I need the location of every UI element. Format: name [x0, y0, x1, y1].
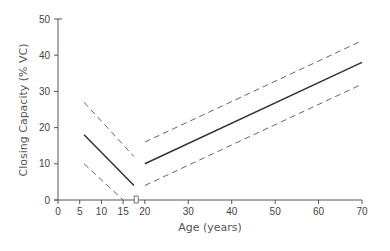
x-tick-label: 5: [77, 206, 83, 217]
x-axis-label: Age (years): [178, 221, 242, 234]
series-line: [84, 102, 134, 156]
series-line: [84, 135, 134, 186]
y-tick-label: 30: [39, 86, 51, 97]
series-line: [145, 62, 362, 163]
y-axis-label: Closing Capacity (% VC): [17, 43, 30, 176]
x-tick-label: 30: [183, 206, 195, 217]
closing-capacity-chart: 01020304050051015203040506070 Age (years…: [0, 0, 390, 251]
y-tick-label: 50: [39, 14, 51, 25]
y-tick-label: 10: [39, 158, 51, 169]
series-lines: [84, 41, 362, 200]
x-tick-label: 40: [226, 206, 238, 217]
x-tick-label: 10: [96, 206, 108, 217]
x-tick-label: 20: [139, 206, 151, 217]
axis-break-icon: [134, 196, 138, 203]
x-tick-label: 70: [356, 206, 368, 217]
x-tick-label: 15: [118, 206, 130, 217]
x-tick-label: 50: [270, 206, 282, 217]
series-line: [145, 84, 362, 185]
y-tick-label: 0: [44, 195, 50, 206]
x-tick-label: 0: [55, 206, 61, 217]
y-tick-label: 40: [39, 50, 51, 61]
y-tick-label: 20: [39, 122, 51, 133]
series-line: [145, 41, 362, 142]
x-tick-label: 60: [313, 206, 325, 217]
